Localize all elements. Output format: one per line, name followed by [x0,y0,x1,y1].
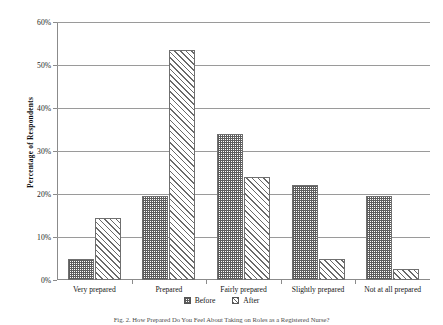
legend-item-after: After [232,296,259,305]
y-tick-label: 30% [37,147,51,156]
bar-after-4 [393,269,419,280]
bar-before-4 [366,196,392,280]
y-tick-label: 20% [37,190,51,199]
bar-after-0 [95,218,121,280]
category-label-0: Very prepared [57,285,132,294]
y-axis-title: Percentage of Respondents [26,43,35,243]
bar-before-1 [142,196,168,280]
gridline [57,151,430,152]
x-tick-mark [281,280,282,284]
legend-swatch-before-icon [184,297,191,304]
category-label-3: Slightly prepared [281,285,356,294]
gridline [57,22,430,23]
category-label-1: Prepared [132,285,207,294]
y-tick-mark [53,194,57,195]
bar-before-0 [68,259,94,281]
gridline [57,65,430,66]
legend-swatch-after-icon [232,297,239,304]
y-tick-mark [53,151,57,152]
bar-after-3 [319,259,345,281]
chart-legend: Before After [0,296,443,305]
y-tick-label: 10% [37,233,51,242]
x-tick-mark [355,280,356,284]
y-tick-mark [53,237,57,238]
x-tick-mark [206,280,207,284]
y-tick-mark [53,108,57,109]
y-tick-mark [53,280,57,281]
legend-label-before: Before [195,296,216,305]
y-tick-label: 0% [41,276,51,285]
plot-area: 0%10%20%30%40%50%60% [57,22,430,280]
bar-chart-figure: Percentage of Respondents 0%10%20%30%40%… [0,0,443,325]
legend-label-after: After [243,296,259,305]
bar-before-3 [292,185,318,280]
y-tick-mark [53,65,57,66]
category-label-2: Fairly prepared [206,285,281,294]
bar-before-2 [217,134,243,280]
bar-after-1 [169,50,195,280]
x-tick-mark [132,280,133,284]
gridline [57,108,430,109]
y-tick-label: 50% [37,61,51,70]
y-tick-mark [53,22,57,23]
bar-after-2 [244,177,270,280]
y-tick-label: 60% [37,18,51,27]
category-label-4: Not at all prepared [355,285,430,294]
y-tick-label: 40% [37,104,51,113]
figure-caption: Fig. 2. How Prepared Do You Feel About T… [0,316,443,323]
legend-item-before: Before [184,296,216,305]
